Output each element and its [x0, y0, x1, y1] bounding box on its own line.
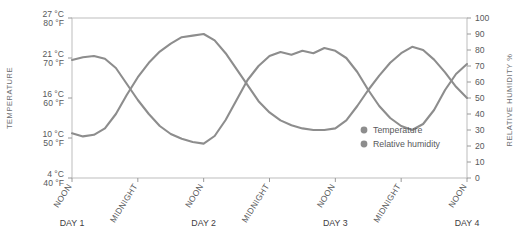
y-right-tick-label: 80 — [475, 45, 485, 55]
y-left-tick-label-f: 40 °F — [43, 178, 64, 188]
y-left-tick-label-f: 70 °F — [43, 58, 64, 68]
chart-canvas: 27 °C80 °F21 °C70 °F16 °C60 °F10 °C50 °F… — [0, 0, 530, 233]
plot-frame — [72, 18, 467, 178]
x-tick-label: NOON — [315, 182, 337, 210]
y-left-tick-label-f: 50 °F — [43, 138, 64, 148]
legend-marker-temperature — [361, 127, 368, 134]
y-right-tick-label: 20 — [475, 141, 485, 151]
x-tick-label: MIDNIGHT — [371, 182, 403, 224]
x-tick-label: MIDNIGHT — [239, 182, 271, 224]
y-right-tick-label: 40 — [475, 109, 485, 119]
y-left-tick-label-f: 60 °F — [43, 98, 64, 108]
x-tick-label: MIDNIGHT — [108, 182, 140, 224]
x-day-label: DAY 3 — [323, 218, 348, 228]
y-right-tick-label: 100 — [475, 13, 490, 23]
y-right-tick-label: 70 — [475, 61, 485, 71]
y-left-tick-label-c: 21 °C — [42, 49, 64, 59]
y-right-tick-label: 30 — [475, 125, 485, 135]
y-left-tick-label-c: 27 °C — [42, 9, 64, 19]
x-day-label: DAY 1 — [60, 218, 85, 228]
y-axis-title-temperature: TEMPERATURE — [5, 67, 14, 129]
y-axis-title-humidity: RELATIVE HUMIDITY % — [505, 53, 514, 146]
y-right-tick-label: 10 — [475, 157, 485, 167]
legend-label-relative-humidity: Relative humidity — [373, 139, 441, 149]
legend-marker-relative-humidity — [361, 141, 368, 148]
series-line-relative-humidity — [72, 34, 467, 136]
y-left-tick-label-c: 4 °C — [47, 169, 64, 179]
y-right-tick-label: 0 — [475, 173, 480, 183]
y-left-tick-label-f: 80 °F — [43, 18, 64, 28]
x-tick-label: NOON — [183, 182, 205, 210]
y-right-tick-label: 60 — [475, 77, 485, 87]
weather-chart: 27 °C80 °F21 °C70 °F16 °C60 °F10 °C50 °F… — [0, 0, 530, 233]
legend-label-temperature: Temperature — [373, 125, 422, 135]
x-day-label: DAY 4 — [455, 218, 480, 228]
x-tick-label: NOON — [446, 182, 468, 210]
y-right-tick-label: 90 — [475, 29, 485, 39]
y-right-tick-label: 50 — [475, 93, 485, 103]
y-left-tick-label-c: 16 °C — [42, 89, 64, 99]
x-day-label: DAY 2 — [191, 218, 216, 228]
y-left-tick-label-c: 10 °C — [42, 129, 64, 139]
